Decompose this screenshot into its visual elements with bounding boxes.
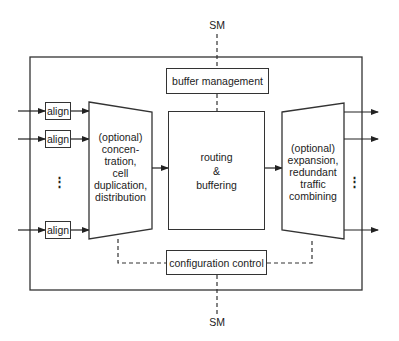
align-block: align xyxy=(45,221,71,239)
input-ellipsis: ⋮ xyxy=(52,176,66,188)
configuration-control-label: configuration control xyxy=(169,257,264,269)
output-ellipsis: ⋮ xyxy=(347,176,361,188)
buffer-management-label: buffer management xyxy=(172,75,263,87)
align-block: align xyxy=(45,130,71,148)
routing-buffering-label: routing & buffering xyxy=(196,150,237,192)
align-label: align xyxy=(47,133,69,145)
routing-buffering-block: routing & buffering xyxy=(168,111,265,230)
configuration-control-block: configuration control xyxy=(166,250,267,275)
align-label: align xyxy=(47,105,69,117)
left-stage-label: (optional) concen- tration, cell duplica… xyxy=(89,131,152,203)
right-stage-label: (optional) expansion, redundant traffic … xyxy=(282,142,344,202)
align-label: align xyxy=(47,224,69,236)
buffer-management-block: buffer management xyxy=(166,68,269,94)
sm-bottom-label: SM xyxy=(202,316,232,328)
sm-top-label: SM xyxy=(202,19,232,31)
align-block: align xyxy=(45,102,71,120)
